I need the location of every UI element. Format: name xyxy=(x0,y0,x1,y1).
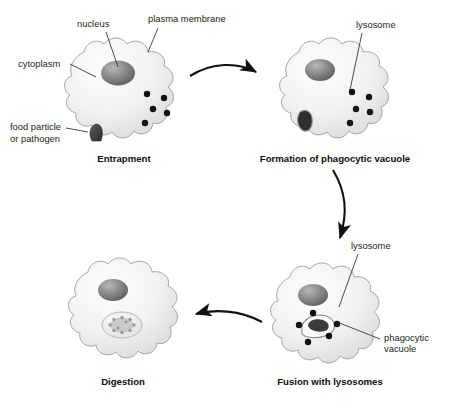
lysosome-dot xyxy=(296,322,302,328)
stage-entrapment xyxy=(65,38,174,141)
arrow-entrapment-to-formation xyxy=(190,65,256,76)
leader-line-plasma-membrane xyxy=(148,28,158,52)
caption-formation: Formation of phagocytic vacuole xyxy=(260,153,410,164)
caption-fusion: Fusion with lysosomes xyxy=(277,376,383,387)
cell-membrane-entrapment xyxy=(65,38,174,138)
lysosome-dot xyxy=(150,106,156,112)
nucleus-fusion xyxy=(298,284,328,306)
stage-fusion xyxy=(271,263,380,363)
lysosome-dot xyxy=(347,120,353,126)
cell-membrane-fusion xyxy=(271,263,380,363)
label-lysosome-top: lysosome xyxy=(356,19,396,30)
label-food-particle: food particle xyxy=(10,121,61,132)
cell-membrane-formation xyxy=(280,38,389,138)
arrow-formation-to-fusion xyxy=(333,170,345,238)
caption-digestion: Digestion xyxy=(101,376,145,387)
nucleus-entrapment xyxy=(101,61,135,86)
stage-digestion xyxy=(69,258,178,358)
food-particle-shape xyxy=(90,124,102,141)
arrow-fusion-to-digestion xyxy=(196,311,262,322)
label-plasma-membrane: plasma membrane xyxy=(148,13,226,24)
phagocytosis-diagram: cytoplasm nucleus plasma membrane food p… xyxy=(0,0,452,404)
nucleus-formation xyxy=(305,59,335,81)
leader-line-food-particle xyxy=(66,128,88,132)
lysosome-dot xyxy=(144,91,150,97)
label-phagocytic-vacuole-line2: vacuole xyxy=(384,343,416,354)
stage-formation xyxy=(280,38,389,138)
lysosome-dot xyxy=(310,310,316,316)
label-phagocytic-vacuole: phagocytic xyxy=(384,332,429,343)
lysosome-dot xyxy=(161,95,167,101)
diagram-canvas: cytoplasm nucleus plasma membrane food p… xyxy=(0,0,452,404)
lysosome-dot xyxy=(334,321,340,327)
nucleus-digestion xyxy=(98,279,128,301)
caption-entrapment: Entrapment xyxy=(97,153,151,164)
label-food-particle-line2: or pathogen xyxy=(10,133,60,144)
label-lysosome-bottom: lysosome xyxy=(351,240,391,251)
lysosome-dot xyxy=(326,333,332,339)
lysosome-dot xyxy=(353,106,359,112)
lysosome-dot xyxy=(366,94,372,100)
lysosome-dot xyxy=(142,120,148,126)
forming-vacuole-particle xyxy=(298,110,313,131)
lysosome-dot xyxy=(367,109,373,115)
label-cytoplasm: cytoplasm xyxy=(18,58,60,69)
cell-membrane-digestion xyxy=(69,258,178,358)
lysosome-dot xyxy=(305,339,311,345)
lysosome-dot xyxy=(164,110,170,116)
label-nucleus: nucleus xyxy=(77,18,110,29)
